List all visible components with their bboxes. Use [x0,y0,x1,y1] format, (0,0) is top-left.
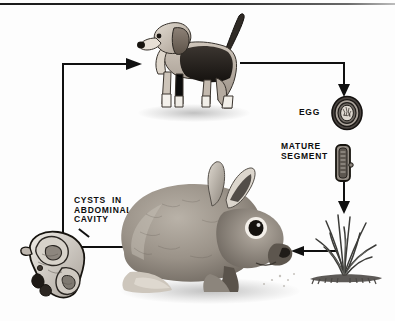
mature-segment-label: MATURE SEGMENT [281,142,328,161]
rabbit-illustration [106,160,298,302]
beagle-dog-illustration [132,8,252,124]
egg-label: EGG [299,108,320,118]
mature-proglottid-illustration [333,143,355,183]
connector-dog-to-egg-vertical [343,62,345,86]
connector-cysts-to-dog-horizontal [62,63,132,65]
life-cycle-diagram: EGG MATURE SEGMENT CYSTS IN ABDOMINAL CA… [0,0,395,321]
cysts-organ-illustration [18,224,98,304]
connector-cysts-to-dog-vertical [62,63,64,239]
top-border-rule [0,3,395,5]
connector-dog-to-egg-horizontal [240,62,344,64]
connector-segment-to-grass-vertical [343,181,345,203]
tapeworm-egg-illustration [330,95,364,131]
grass-clump-illustration [304,205,386,287]
